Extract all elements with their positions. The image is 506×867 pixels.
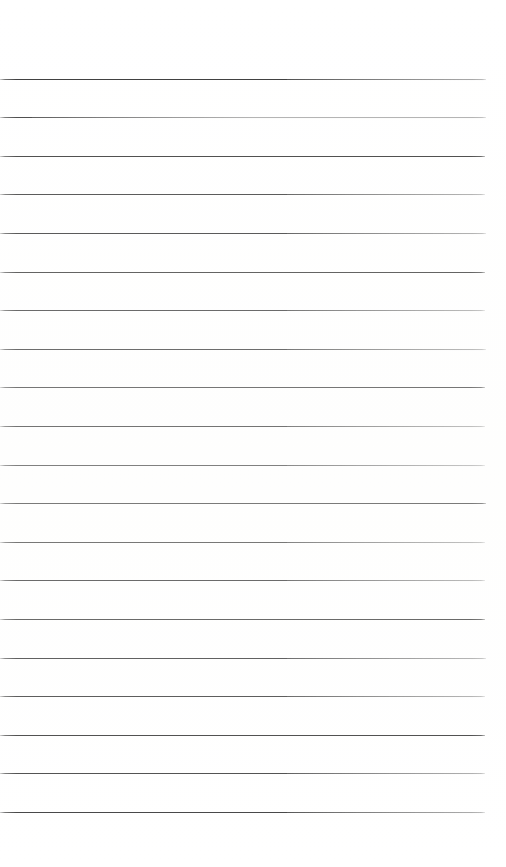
ruled-line (0, 735, 485, 736)
ruled-line (0, 272, 485, 273)
ruled-line (0, 156, 485, 157)
ruled-line (0, 233, 486, 234)
ruled-line (0, 349, 486, 350)
ruled-line (0, 426, 485, 427)
ruled-line (0, 542, 485, 543)
ruled-line (0, 619, 485, 620)
ruled-line (0, 658, 486, 659)
scanned-page (0, 0, 506, 867)
ruled-line (0, 812, 485, 813)
paper-surface (0, 0, 506, 867)
ruled-line (0, 465, 485, 466)
ruled-line (0, 79, 486, 80)
